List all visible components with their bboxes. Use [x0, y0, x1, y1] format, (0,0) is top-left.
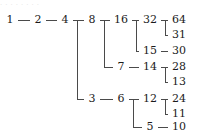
- tree-node-2: 2: [35, 14, 42, 26]
- tree-node-28: 28: [172, 61, 186, 73]
- edge-group: [18, 20, 168, 127]
- tree-node-5: 5: [147, 121, 154, 133]
- tree-node-8: 8: [89, 14, 96, 26]
- tree-node-10: 10: [172, 121, 186, 133]
- tree-node-16: 16: [114, 14, 128, 26]
- top-cropped-text-artifact: · · · · · · · ·: [0, 0, 201, 10]
- tree-node-30: 30: [172, 45, 186, 57]
- tree-node-1: 1: [7, 14, 14, 26]
- tree-edges-layer: [0, 0, 201, 136]
- tree-node-11: 11: [172, 108, 186, 120]
- tree-node-4: 4: [62, 14, 69, 26]
- tree-node-14: 14: [143, 61, 157, 73]
- tree-node-3: 3: [89, 93, 96, 105]
- tree-node-24: 24: [172, 93, 186, 105]
- tree-node-13: 13: [172, 76, 186, 88]
- tree-node-31: 31: [172, 29, 186, 41]
- tree-node-12: 12: [143, 93, 157, 105]
- tree-node-6: 6: [118, 93, 125, 105]
- tree-node-7: 7: [118, 61, 125, 73]
- tree-node-64: 64: [172, 14, 186, 26]
- diagram-canvas: · · · · · · · · 124816326431153071428133…: [0, 0, 201, 136]
- tree-node-32: 32: [143, 14, 157, 26]
- tree-node-15: 15: [143, 45, 157, 57]
